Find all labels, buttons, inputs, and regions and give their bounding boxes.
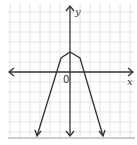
grid: [8, 4, 134, 138]
y-axis-label: y: [74, 6, 81, 17]
y-axis: [66, 6, 74, 136]
graph: y x 0: [0, 0, 137, 145]
x-axis-label: x: [127, 76, 133, 87]
origin-label: 0: [63, 74, 69, 85]
x-axis: [9, 68, 133, 76]
